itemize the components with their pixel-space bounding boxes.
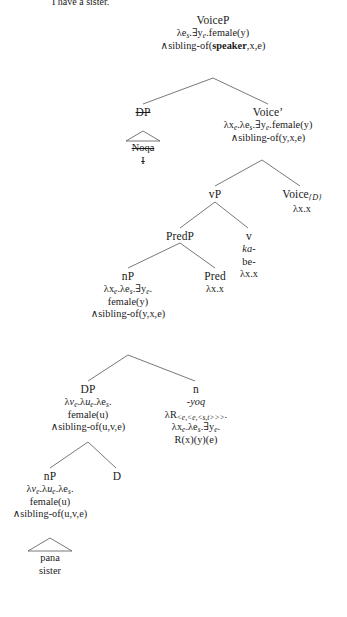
node-nP-upper-label: nP bbox=[91, 269, 166, 283]
node-n-head-label: n bbox=[165, 382, 227, 396]
node-n-head-denotation-2: λxe.λes.∃ye. bbox=[165, 421, 227, 434]
node-nP-lower-denotation-3: ∧sibling-of(u,v,e) bbox=[13, 508, 88, 521]
node-voice-bar-denotation-2: ∧sibling-of(y,x,e) bbox=[224, 132, 313, 145]
node-n-head-morpheme: -yoq bbox=[165, 396, 227, 409]
node-voice-d-denotation: λx.x bbox=[282, 203, 321, 216]
node-pred-head-denotation: λx.x bbox=[204, 283, 225, 296]
node-voice-d-label: Voice{D} bbox=[282, 187, 321, 203]
terminal-noqa-form: Noqa bbox=[132, 142, 155, 155]
node-predP-label: PredP bbox=[166, 229, 194, 243]
node-vP: vP bbox=[209, 187, 221, 201]
node-voiceP-denotation-1: λes.∃ye.female(y) bbox=[161, 27, 266, 40]
node-predP: PredP bbox=[166, 229, 194, 243]
node-n-head: n -yoq λR<e,<e,<s,t>>>. λxe.λes.∃ye. R(x… bbox=[165, 382, 227, 446]
node-voiceP-denotation-2: ∧sibling-of(speaker,x,e) bbox=[161, 40, 266, 53]
syntax-tree-diagram: I have a sister. VoiceP λes.∃ye.female(y… bbox=[0, 0, 347, 617]
voice-d-index: {D} bbox=[309, 193, 322, 202]
node-voice-d: Voice{D} λx.x bbox=[282, 187, 321, 215]
node-voiceP-label: VoiceP bbox=[161, 13, 266, 27]
node-d-head: D bbox=[113, 469, 121, 483]
node-nP-lower-denotation-2: female(u) bbox=[13, 496, 88, 509]
speaker-term: speaker bbox=[212, 40, 247, 51]
node-dp-lower: DP λve.λue.λes. female(u) ∧sibling-of(u,… bbox=[51, 382, 126, 434]
node-dp-subject-label: DP bbox=[136, 105, 151, 119]
node-dp-lower-denotation-1: λve.λue.λes. bbox=[51, 396, 126, 409]
node-voice-bar-label: Voice’ bbox=[224, 105, 313, 119]
node-n-head-denotation-3: R(x)(y)(e) bbox=[165, 434, 227, 447]
node-vP-label: vP bbox=[209, 187, 221, 201]
node-dp-subject: DP bbox=[136, 105, 151, 119]
terminal-noqa-gloss: I bbox=[132, 155, 155, 168]
node-v-head-label: v bbox=[240, 229, 258, 243]
node-n-head-denotation-1: λR<e,<e,<s,t>>>. bbox=[165, 409, 227, 422]
terminal-noqa: Noqa I bbox=[132, 142, 155, 167]
node-dp-lower-denotation-3: ∧sibling-of(u,v,e) bbox=[51, 421, 126, 434]
node-nP-upper: nP λxe.λes.∃ye. female(y) ∧sibling-of(y,… bbox=[91, 269, 166, 321]
node-voice-bar: Voice’ λxe.λes.∃ye.female(y) ∧sibling-of… bbox=[224, 105, 313, 144]
terminal-pana-form: pana bbox=[39, 552, 61, 565]
example-caption: I have a sister. bbox=[52, 0, 109, 7]
tree-branch-lines bbox=[0, 0, 347, 617]
node-pred-head: Pred λx.x bbox=[204, 269, 225, 296]
node-nP-lower: nP λve.λue.λes. female(u) ∧sibling-of(u,… bbox=[13, 469, 88, 521]
node-v-head: v ka- be- λx.x bbox=[240, 229, 258, 281]
node-nP-upper-denotation-2: female(y) bbox=[91, 296, 166, 309]
node-d-head-label: D bbox=[113, 469, 121, 483]
node-voice-bar-denotation-1: λxe.λes.∃ye.female(y) bbox=[224, 119, 313, 132]
node-nP-lower-denotation-1: λve.λue.λes. bbox=[13, 483, 88, 496]
node-nP-lower-label: nP bbox=[13, 469, 88, 483]
node-v-head-morpheme: ka- bbox=[240, 243, 258, 256]
node-pred-head-label: Pred bbox=[204, 269, 225, 283]
node-v-head-gloss: be- bbox=[240, 256, 258, 269]
node-nP-upper-denotation-1: λxe.λes.∃ye. bbox=[91, 283, 166, 296]
node-nP-upper-denotation-3: ∧sibling-of(y,x,e) bbox=[91, 308, 166, 321]
node-dp-lower-label: DP bbox=[51, 382, 126, 396]
node-voiceP: VoiceP λes.∃ye.female(y) ∧sibling-of(spe… bbox=[161, 13, 266, 52]
node-v-head-denotation: λx.x bbox=[240, 268, 258, 281]
terminal-pana: pana sister bbox=[39, 552, 61, 577]
node-dp-lower-denotation-2: female(u) bbox=[51, 409, 126, 422]
terminal-pana-gloss: sister bbox=[39, 565, 61, 578]
